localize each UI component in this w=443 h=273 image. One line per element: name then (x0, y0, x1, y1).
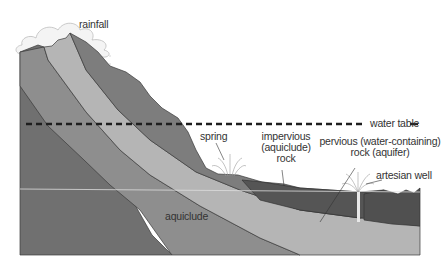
artesian-well-shaft (357, 192, 360, 222)
artesian-well-label: artesian well (376, 170, 432, 181)
water-table-label: water table (370, 118, 419, 129)
pervious-line2: rock (aquifer) (318, 147, 442, 158)
spring-spray-icon (212, 154, 246, 176)
impervious-label: impervious (aquiclude) rock (256, 131, 316, 164)
aquiclude-label: aquiclude (165, 211, 208, 222)
rainfall-label: rainfall (79, 19, 108, 30)
spring-pointer (216, 143, 224, 160)
impervious-line3: rock (256, 153, 316, 164)
pervious-label: pervious (water-containing) rock (aquife… (318, 136, 442, 158)
dark-rock-right-2 (364, 188, 420, 226)
artesian-spray-icon (342, 172, 374, 192)
spring-label: spring (200, 131, 227, 142)
